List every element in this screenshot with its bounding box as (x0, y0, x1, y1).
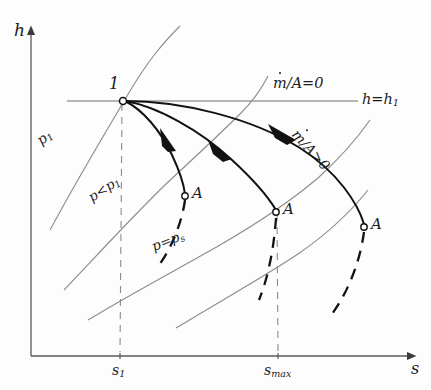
arrowhead-middle-curve (208, 140, 232, 162)
h-axis-label: h (14, 22, 25, 39)
guide-smax-dashed (277, 214, 278, 352)
enthalpy-line-label: h=h1 (362, 92, 399, 108)
dashed-branch-middle (259, 218, 276, 300)
arrowhead-left-curve (160, 128, 176, 152)
hs-diagram-figure: h s 1 s1 smax p1 p<p1 p=ps h=h1 m/A=0 m/… (0, 0, 431, 390)
mdot-zero-symbol: m (273, 76, 287, 91)
tick-label-smax: smax (264, 363, 291, 379)
mdot-zero-suffix: /A=0 (287, 75, 324, 91)
mass-flux-zero-label: m/A=0 (273, 76, 323, 91)
tick-label-smax-sub: max (271, 368, 291, 379)
curve-arrowhead-group (160, 124, 296, 162)
state-point-A-right-marker (361, 224, 367, 230)
isobar-p-less-than-p1 (64, 76, 268, 290)
state-point-A-left-label: A (192, 186, 203, 201)
isobar-outer (176, 190, 368, 328)
state-point-A-middle-label: A (283, 202, 294, 217)
isobar-p1 (50, 26, 180, 230)
enthalpy-line-base: h=h (362, 91, 393, 107)
state-point-1-label: 1 (109, 76, 119, 92)
guide-s1-dashed (120, 104, 122, 352)
expansion-curve-left (125, 101, 185, 194)
state-point-A-middle-marker (273, 209, 279, 215)
dashed-continuation-group (157, 200, 364, 314)
state-point-1-marker (120, 98, 127, 105)
tick-label-s1-sub: 1 (119, 368, 125, 379)
state-point-A-right-label: A (371, 217, 382, 232)
isobar-group (50, 26, 370, 328)
state-point-A-left-marker (182, 193, 188, 199)
tick-label-s1: s1 (112, 363, 125, 379)
dashed-branch-right (332, 232, 364, 314)
diagram-canvas (0, 0, 431, 390)
s-axis-label: s (411, 361, 419, 377)
enthalpy-line-sub: 1 (393, 97, 399, 108)
